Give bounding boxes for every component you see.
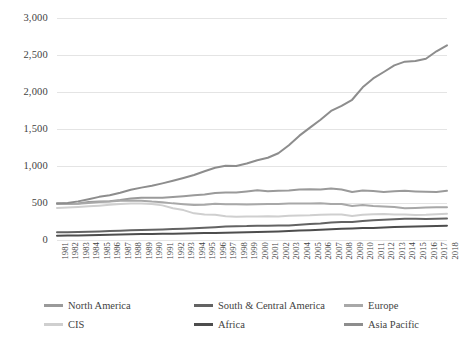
x-tick-label: 2001: [271, 242, 280, 260]
legend-swatch-icon: [344, 323, 363, 326]
x-tick-label: 1991: [166, 242, 175, 260]
x-tick-label: 1988: [134, 242, 143, 260]
legend-label: Africa: [218, 319, 245, 330]
x-tick-label: 2018: [451, 242, 460, 260]
legend-item[interactable]: North America: [44, 300, 194, 311]
x-tick-label: 2005: [314, 242, 323, 260]
legend-label: Europe: [368, 300, 398, 311]
x-tick-label: 1997: [229, 242, 238, 260]
x-tick-label: 2009: [356, 242, 365, 260]
x-tick-label: 2007: [335, 242, 344, 260]
y-tick-label: 2,500: [23, 50, 48, 61]
legend-label: Asia Pacific: [368, 319, 419, 330]
x-tick-label: 2011: [377, 242, 386, 259]
x-tick-label: 1993: [187, 242, 196, 260]
y-axis: 05001,0001,5002,0002,5003,000: [0, 18, 52, 240]
x-axis: 1981198219831984198519861987198819891990…: [57, 242, 447, 286]
y-tick-label: 500: [32, 198, 48, 209]
legend-item[interactable]: CIS: [44, 319, 194, 330]
series-line: [57, 45, 447, 203]
plot-area: [57, 18, 447, 240]
legend-item[interactable]: Europe: [344, 300, 454, 311]
x-tick-label: 2014: [408, 242, 417, 260]
series-lines: [57, 18, 447, 240]
x-tick-label: 1995: [208, 242, 217, 260]
legend-label: CIS: [68, 319, 84, 330]
x-tick-label: 1996: [219, 242, 228, 260]
chart-legend: North AmericaSouth & Central AmericaEuro…: [44, 296, 414, 334]
x-tick-label: 1987: [124, 242, 133, 260]
x-tick-label: 1994: [198, 242, 207, 260]
legend-label: North America: [68, 300, 131, 311]
x-tick-label: 1989: [145, 242, 154, 260]
y-tick-label: 1,500: [23, 124, 48, 135]
legend-swatch-icon: [344, 304, 363, 307]
x-tick-label: 2010: [366, 242, 375, 260]
x-tick-label: 2000: [261, 242, 270, 260]
x-tick-label: 1984: [92, 242, 101, 260]
legend-swatch-icon: [44, 304, 63, 307]
series-line: [57, 218, 447, 232]
y-tick-label: 3,000: [23, 13, 48, 24]
x-tick-label: 1985: [103, 242, 112, 260]
legend-item[interactable]: South & Central America: [194, 300, 344, 311]
x-tick-label: 2013: [398, 242, 407, 260]
legend-swatch-icon: [194, 323, 213, 326]
y-tick-label: 1,000: [23, 161, 48, 172]
x-tick-label: 2015: [419, 242, 428, 260]
x-tick-label: 1982: [71, 242, 80, 260]
series-line: [57, 204, 447, 217]
x-tick-label: 2008: [345, 242, 354, 260]
x-tick-label: 1998: [240, 242, 249, 260]
x-tick-label: 2002: [282, 242, 291, 260]
legend-item[interactable]: Asia Pacific: [344, 319, 454, 330]
legend-label: South & Central America: [218, 300, 325, 311]
x-tick-label: 1986: [113, 242, 122, 260]
x-tick-label: 1999: [250, 242, 259, 260]
x-tick-label: 2003: [292, 242, 301, 260]
x-tick-label: 2012: [387, 242, 396, 260]
x-tick-label: 2017: [440, 242, 449, 260]
x-tick-label: 1990: [155, 242, 164, 260]
x-tick-label: 1981: [61, 242, 70, 260]
legend-item[interactable]: Africa: [194, 319, 344, 330]
x-tick-label: 1983: [82, 242, 91, 260]
x-tick-label: 2004: [303, 242, 312, 260]
x-tick-label: 2016: [430, 242, 439, 260]
y-tick-label: 0: [43, 235, 48, 246]
y-tick-label: 2,000: [23, 87, 48, 98]
legend-swatch-icon: [44, 323, 63, 326]
legend-swatch-icon: [194, 304, 213, 307]
x-tick-label: 1992: [177, 242, 186, 260]
x-tick-label: 2006: [324, 242, 333, 260]
